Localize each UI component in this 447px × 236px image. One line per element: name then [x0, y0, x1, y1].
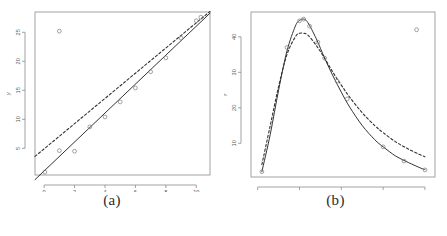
plot-area-b: 05010015020010203040xy — [224, 0, 447, 192]
data-point — [194, 19, 198, 23]
data-point — [345, 97, 349, 101]
data-point — [164, 56, 168, 60]
data-point — [103, 115, 107, 119]
y-tick-label: 20 — [15, 58, 21, 64]
data-point — [73, 149, 77, 153]
data-point — [415, 28, 419, 32]
fit-line-dashed — [35, 11, 210, 156]
y-tick-label: 10 — [231, 140, 237, 146]
y-tick-label: 20 — [231, 105, 237, 111]
panel-b: 05010015020010203040xy (b) — [224, 0, 447, 236]
y-tick-label: 10 — [15, 116, 21, 122]
data-point — [57, 149, 61, 153]
fit-line-solid — [262, 19, 425, 172]
data-point — [149, 70, 153, 74]
data-point — [57, 29, 61, 33]
panel-b-caption: (b) — [224, 192, 447, 209]
chart-a-svg: 0246810510152025xy — [0, 0, 224, 192]
y-tick-label: 30 — [231, 69, 237, 75]
fit-line-solid — [35, 13, 210, 179]
data-point — [118, 100, 122, 104]
y-tick-label: 25 — [15, 29, 21, 35]
y-tick-label: 15 — [15, 87, 21, 93]
panel-a-caption: (a) — [0, 192, 224, 209]
y-axis-title: y — [224, 92, 227, 97]
panel-a: 0246810510152025xy (a) — [0, 0, 224, 236]
data-point — [179, 36, 183, 40]
y-axis-title: y — [5, 91, 11, 96]
y-tick-label: 40 — [231, 34, 237, 40]
data-point — [134, 86, 138, 90]
chart-b-svg: 05010015020010203040xy — [224, 0, 447, 192]
y-tick-label: 5 — [15, 147, 21, 150]
plot-area-a: 0246810510152025xy — [0, 0, 224, 192]
figure-two-panel-regression: 0246810510152025xy (a) 05010015020010203… — [0, 0, 447, 236]
